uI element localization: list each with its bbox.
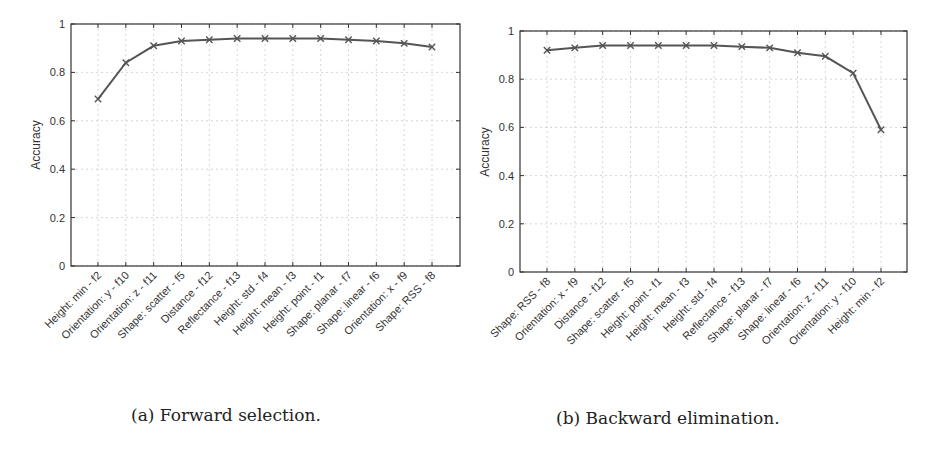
- y-tick-label: 0.4: [50, 163, 65, 175]
- y-axis-title: Accuracy: [478, 127, 492, 176]
- y-axis-title: Accuracy: [29, 120, 43, 169]
- y-tick-label: 0.4: [499, 170, 514, 182]
- y-tick-label: 0.2: [50, 212, 65, 224]
- figure: 00.20.40.60.81Height: min - f2Orientatio…: [0, 0, 941, 455]
- y-tick-label: 0.2: [499, 218, 514, 230]
- y-tick-label: 0.8: [499, 73, 514, 85]
- y-tick-label: 1: [59, 18, 65, 30]
- grid: [520, 31, 907, 272]
- y-tick-label: 0.8: [50, 66, 65, 78]
- forward-selection-plot: 00.20.40.60.81Height: min - f2Orientatio…: [29, 18, 460, 341]
- plot-frame: [520, 31, 907, 272]
- x-marker-icon: [95, 96, 101, 102]
- y-tick-label: 1: [508, 25, 514, 37]
- y-tick-label: 0.6: [499, 121, 514, 133]
- y-tick-label: 0: [59, 260, 65, 272]
- caption-backward-elimination: (b) Backward elimination.: [556, 408, 780, 428]
- y-tick-label: 0: [508, 266, 514, 278]
- backward-elimination-plot: 00.20.40.60.81Shape: RSS - f8Orientation…: [478, 25, 907, 347]
- caption-forward-selection: (a) Forward selection.: [131, 405, 321, 425]
- y-tick-label: 0.6: [50, 115, 65, 127]
